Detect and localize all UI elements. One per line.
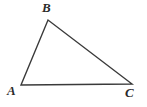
triangle-figure: A B C	[0, 0, 147, 107]
triangle-outline	[21, 20, 132, 85]
vertex-label-c: C	[125, 86, 134, 99]
vertex-label-a: A	[7, 84, 16, 97]
vertex-label-b: B	[42, 1, 51, 14]
